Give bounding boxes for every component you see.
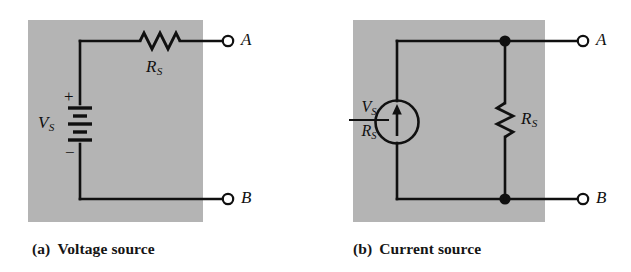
terminal-a-node-icon: [223, 36, 233, 46]
terminal-b-label: B: [596, 189, 606, 206]
terminal-a-node-icon: [578, 36, 588, 46]
terminal-b-label: B: [241, 189, 251, 206]
fraction-bar: [349, 119, 389, 121]
terminal-a-label: A: [596, 31, 606, 48]
source-label-vs: VS: [38, 114, 54, 133]
caption-text-a: Voltage source: [57, 240, 154, 257]
figure-root: RS VS + − A B (a)Voltage source: [0, 0, 631, 272]
terminal-a-label: A: [241, 31, 251, 48]
fraction-denominator: RS: [349, 122, 389, 142]
source-label-vs-over-rs: VS RS: [349, 98, 389, 142]
terminal-b-node-icon: [578, 194, 588, 204]
caption-current-source: (b)Current source: [353, 240, 481, 258]
panel-voltage-source: RS VS + − A B (a)Voltage source: [0, 0, 300, 230]
caption-voltage-source: (a)Voltage source: [32, 240, 155, 258]
fraction-numerator: VS: [349, 98, 389, 118]
panel-current-source: VS RS RS A B (b)Current source: [325, 0, 631, 230]
caption-text-b: Current source: [379, 240, 481, 257]
polarity-minus-sign: −: [65, 144, 75, 161]
polarity-plus-sign: +: [64, 88, 74, 105]
terminal-b-node-icon: [223, 194, 233, 204]
resistor-label-rs: RS: [146, 58, 162, 77]
caption-tag-a: (a): [32, 240, 50, 257]
resistor-label-rs: RS: [521, 110, 537, 129]
caption-tag-b: (b): [353, 240, 372, 257]
